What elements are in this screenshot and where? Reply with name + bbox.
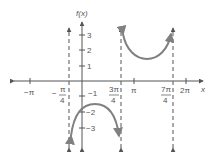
x-axis-label: x (200, 85, 206, 94)
y-label-neg1: −1 (88, 89, 98, 98)
x-label-7pi-4-den: 4 (163, 96, 168, 105)
y-label-neg3: −3 (86, 124, 96, 133)
y-axis-label: f(x) (76, 9, 88, 18)
x-label-neg-pi-4-num: π (60, 85, 66, 94)
y-label-2: 2 (87, 46, 92, 55)
secant-graph: f(x) x 3 2 1 −1 −2 −3 −π − π 4 3π 4 π 7π… (0, 0, 216, 153)
x-label-neg-pi: −π (24, 88, 35, 97)
x-label-3pi-4-num: 3π (109, 85, 119, 94)
x-label-7pi-4-num: 7π (161, 85, 171, 94)
x-label-2pi: 2π (180, 86, 190, 95)
y-label-neg2: −2 (86, 108, 96, 117)
upper-branch-curve (123, 34, 171, 59)
x-label-3pi-4-den: 4 (111, 96, 116, 105)
x-label-neg-pi-4-sign: − (52, 89, 57, 98)
x-label-pi: π (131, 86, 137, 95)
y-label-3: 3 (87, 31, 92, 40)
x-label-neg-pi-4-den: 4 (60, 96, 65, 105)
asymptotes (69, 28, 173, 148)
y-label-1: 1 (87, 62, 92, 71)
